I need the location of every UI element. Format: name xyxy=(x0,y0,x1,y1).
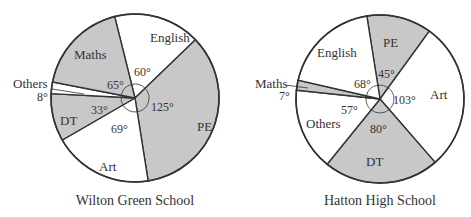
pie-wilton-green xyxy=(51,14,219,182)
angle-others: 8° xyxy=(37,90,48,104)
label-pe: PE xyxy=(383,35,398,50)
label-english: English xyxy=(317,45,357,60)
angle-maths: 65° xyxy=(107,78,124,92)
label-others: Others xyxy=(13,76,48,91)
angle-pe: 45° xyxy=(378,67,395,81)
angle-english: 60° xyxy=(134,65,151,79)
angle-maths: 7° xyxy=(279,89,290,103)
angle-art: 69° xyxy=(111,122,128,136)
angle-others: 57° xyxy=(341,103,358,117)
pie-charts: English PE Art DT Others Maths 60° 125° … xyxy=(0,0,471,217)
angle-dt: 80° xyxy=(370,122,387,136)
chart-title-left: Wilton Green School xyxy=(76,193,195,208)
angle-art: 103° xyxy=(393,93,416,107)
label-dt: DT xyxy=(366,154,383,169)
label-dt: DT xyxy=(60,113,77,128)
label-art: Art xyxy=(430,87,448,102)
label-art: Art xyxy=(99,159,117,174)
label-pe: PE xyxy=(197,119,212,134)
angle-dt: 33° xyxy=(91,103,108,117)
label-maths: Maths xyxy=(74,47,107,62)
chart-title-right: Hatton High School xyxy=(324,193,436,208)
angle-pe: 125° xyxy=(151,100,174,114)
label-others: Others xyxy=(306,116,341,131)
label-english: English xyxy=(150,30,190,45)
angle-english: 68° xyxy=(354,77,371,91)
